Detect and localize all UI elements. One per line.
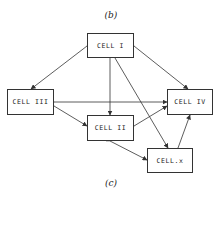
node-cell-3: CELL III <box>7 89 54 115</box>
node-cell-1: CELL I <box>87 33 134 58</box>
node-label: CELL IV <box>174 98 206 106</box>
node-label: CELL II <box>95 124 127 132</box>
caption-bottom: (c) <box>96 178 126 188</box>
edge-cell1-cell3 <box>31 46 87 89</box>
node-label: CELL.x <box>156 157 183 165</box>
node-label: CELL I <box>97 42 124 50</box>
edge-cell2-cell4 <box>134 106 167 126</box>
edge-cell3-cell2 <box>54 106 87 126</box>
edge-cell1-cell4 <box>134 46 188 89</box>
edge-cell2-cellx <box>110 141 147 160</box>
edge-cellx-cell4 <box>178 115 190 148</box>
node-cell-2: CELL II <box>87 115 134 141</box>
node-cell-4: CELL IV <box>167 89 213 115</box>
node-cell-x: CELL.x <box>147 148 193 173</box>
node-label: CELL III <box>12 98 48 106</box>
